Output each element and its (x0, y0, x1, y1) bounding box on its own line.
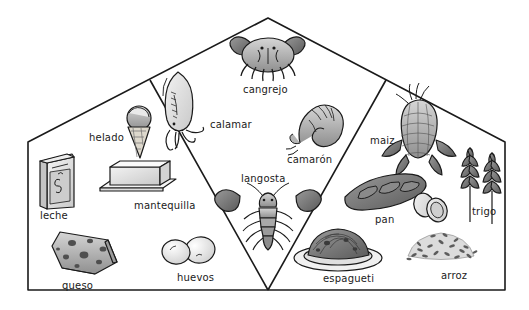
milk-carton-icon (40, 154, 74, 209)
label-maiz: maiz (370, 136, 395, 146)
label-leche: leche (40, 211, 68, 221)
label-mantequilla: mantequilla (134, 201, 196, 211)
bread-loaf-icon (345, 174, 451, 225)
cheese-wedge-icon (52, 232, 117, 274)
crab-icon (230, 37, 305, 81)
label-trigo: trigo (472, 207, 496, 217)
label-langosta: langosta (241, 174, 286, 184)
food-vocabulary-diagram: leche helado mantequilla queso huevos ca… (0, 0, 529, 310)
label-queso: queso (62, 281, 93, 291)
corn-cob-icon (382, 83, 456, 175)
label-cangrejo: cangrejo (243, 85, 288, 95)
label-calamar: calamar (210, 120, 252, 130)
spaghetti-plate-icon (294, 229, 382, 271)
shrimp-icon (286, 105, 343, 155)
label-helado: helado (89, 133, 124, 143)
lobster-icon (215, 183, 322, 250)
squid-icon (163, 72, 204, 150)
rice-pile-icon (406, 232, 478, 260)
label-huevos: huevos (177, 273, 214, 283)
label-espagueti: espagueti (323, 274, 374, 284)
label-pan: pan (375, 215, 394, 225)
eggs-icon (160, 234, 217, 266)
label-arroz: arroz (441, 271, 467, 281)
ice-cream-cone-icon (127, 106, 151, 158)
label-camaron: camarón (287, 155, 332, 165)
butter-stick-icon (100, 161, 176, 191)
illustrations (0, 0, 529, 310)
